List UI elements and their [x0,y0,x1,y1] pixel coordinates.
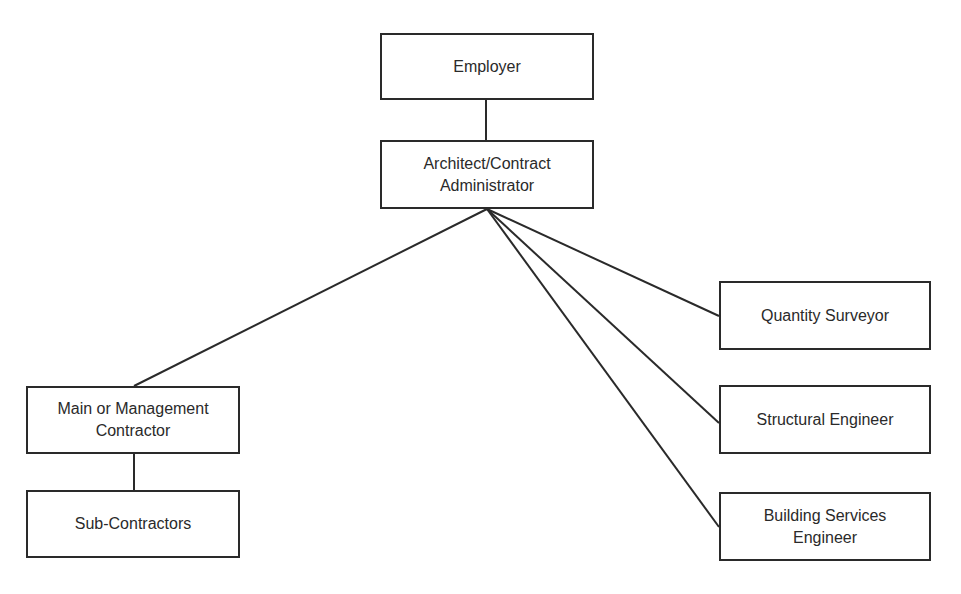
edge-architect-quantity-surveyor [487,209,719,316]
edge-architect-structural-engineer [487,209,719,423]
org-diagram: Employer Architect/Contract Administrato… [0,0,961,594]
edge-architect-main-contractor [134,209,487,386]
node-structural-engineer: Structural Engineer [719,385,931,454]
node-employer: Employer [380,33,594,100]
edge-architect-building-services-engineer [487,209,719,527]
node-sub-contractors: Sub-Contractors [26,490,240,558]
node-quantity-surveyor: Quantity Surveyor [719,281,931,350]
node-architect: Architect/Contract Administrator [380,140,594,209]
node-main-contractor: Main or Management Contractor [26,386,240,454]
node-building-services-engineer: Building Services Engineer [719,492,931,561]
